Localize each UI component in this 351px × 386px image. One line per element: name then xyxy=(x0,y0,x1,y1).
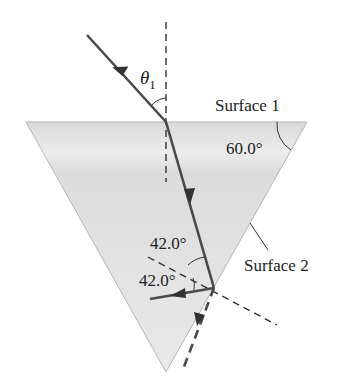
reflected-angle-label: 42.0° xyxy=(139,272,176,289)
arrow-head-icon xyxy=(112,65,129,76)
theta1-symbol: θ xyxy=(140,67,149,88)
surface2-leader xyxy=(250,223,268,250)
apex-angle-label: 60.0° xyxy=(226,140,263,157)
incident-angle-label: 42.0° xyxy=(150,235,187,252)
prism-diagram xyxy=(0,0,351,386)
theta1-label: θ1 xyxy=(140,68,156,91)
surface2-label: Surface 2 xyxy=(244,257,309,274)
theta1-subscript: 1 xyxy=(149,77,156,92)
surface1-label: Surface 1 xyxy=(215,97,280,114)
theta1-arc xyxy=(151,98,166,106)
